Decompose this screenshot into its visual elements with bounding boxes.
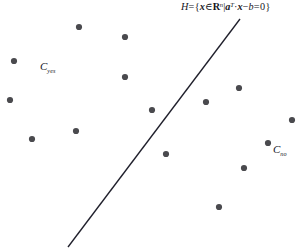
separating-hyperplane-figure: H={x∈Rn|aT·x−b=0} Cyes Cno [0, 0, 301, 250]
data-point-Cyes [149, 107, 155, 113]
data-point-Cno [265, 140, 271, 146]
class-no-subscript: no [280, 150, 286, 157]
equation-b-variable: b [249, 1, 254, 12]
scatter-plot-canvas [0, 0, 301, 250]
data-point-Cno [216, 204, 222, 210]
hyperplane-line-layer [68, 19, 240, 247]
data-point-Cyes [122, 74, 128, 80]
data-point-Cyes [76, 24, 82, 30]
class-yes-subscript: yes [47, 67, 55, 74]
data-point-Cno [236, 85, 242, 91]
class-label-c-yes: Cyes [40, 61, 56, 74]
data-point-Cyes [29, 136, 35, 142]
equation-element-of-symbol: ∈ [205, 1, 213, 12]
data-points-layer [7, 24, 295, 210]
separating-hyperplane-line [68, 19, 240, 247]
data-point-Cno [163, 151, 169, 157]
equation-equals-2: = [254, 1, 260, 12]
equation-reals-symbol: R [213, 1, 220, 12]
equation-x-variable: x [200, 1, 205, 12]
data-point-Cyes [11, 58, 17, 64]
data-point-Cyes [122, 34, 128, 40]
data-point-Cyes [7, 97, 13, 103]
data-point-Cno [289, 117, 295, 123]
data-point-Cno [203, 99, 209, 105]
equation-close-brace: } [265, 1, 270, 12]
class-label-c-no: Cno [273, 144, 287, 157]
hyperplane-equation-label: H={x∈Rn|aT·x−b=0} [181, 2, 271, 12]
data-point-Cno [241, 165, 247, 171]
data-point-Cyes [73, 128, 79, 134]
